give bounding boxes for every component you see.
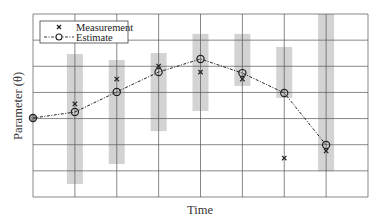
chart: Measurement Estimate Time Parameter (θ) [0, 0, 381, 221]
x-axis-title: Time [187, 203, 213, 217]
y-axis-title: Parameter (θ) [11, 72, 25, 140]
legend: Measurement Estimate [40, 21, 133, 43]
legend-estimate-label: Estimate [76, 32, 113, 43]
estimate-point-marker-icon [29, 114, 36, 121]
